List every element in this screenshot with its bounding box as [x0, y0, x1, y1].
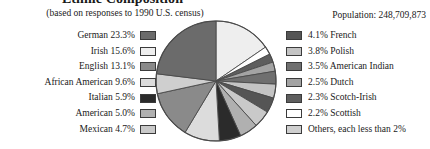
- legend-swatch: [140, 125, 156, 134]
- legend-label: African American 9.6%: [45, 78, 135, 88]
- legend-label: 2.2% Scottish: [308, 109, 361, 119]
- legend-label: 2.5% Dutch: [308, 78, 353, 88]
- legend-item: Italian 5.9%: [0, 90, 156, 106]
- legend-item: 2.5% Dutch: [286, 75, 430, 91]
- pie-chart: [155, 20, 277, 142]
- legend-right: 4.1% French3.8% Polish3.5% American Indi…: [286, 28, 430, 137]
- legend-item: 3.5% American Indian: [286, 59, 430, 75]
- page-subtitle: (based on responses to 1990 U.S. census): [0, 8, 250, 18]
- legend-item: 2.2% Scottish: [286, 106, 430, 122]
- legend-label: German 23.3%: [77, 31, 135, 41]
- legend-swatch: [286, 125, 302, 134]
- legend-swatch: [286, 109, 302, 118]
- legend-label: Mexican 4.7%: [80, 125, 135, 135]
- legend-swatch: [286, 94, 302, 103]
- legend-swatch: [140, 94, 156, 103]
- legend-swatch: [140, 78, 156, 87]
- legend-swatch: [286, 31, 302, 40]
- legend-item: 2.3% Scotch-Irish: [286, 90, 430, 106]
- population-annotation: Population: 248,709,873: [332, 10, 426, 20]
- pie-slice: [156, 21, 216, 81]
- legend-swatch: [140, 47, 156, 56]
- ethnic-composition-figure: Ethnic Composition (based on responses t…: [0, 0, 430, 149]
- legend-item: 4.1% French: [286, 28, 430, 44]
- legend-swatch: [286, 78, 302, 87]
- legend-label: 2.3% Scotch-Irish: [308, 93, 377, 103]
- legend-label: Irish 15.6%: [91, 47, 135, 57]
- legend-item: Irish 15.6%: [0, 44, 156, 60]
- legend-item: 3.8% Polish: [286, 44, 430, 60]
- legend-label: 3.8% Polish: [308, 47, 354, 57]
- legend-label: Others, each less than 2%: [308, 125, 406, 135]
- legend-item: African American 9.6%: [0, 75, 156, 91]
- legend-item: German 23.3%: [0, 28, 156, 44]
- legend-swatch: [140, 62, 156, 71]
- page-title: Ethnic Composition: [0, 0, 245, 7]
- legend-label: Italian 5.9%: [89, 93, 135, 103]
- legend-item: English 13.1%: [0, 59, 156, 75]
- legend-label: 3.5% American Indian: [308, 62, 394, 72]
- pie-chart-svg: [155, 20, 277, 142]
- legend-label: American 5.0%: [75, 109, 135, 119]
- legend-item: Mexican 4.7%: [0, 122, 156, 138]
- legend-swatch: [140, 31, 156, 40]
- legend-item: Others, each less than 2%: [286, 122, 430, 138]
- legend-swatch: [140, 109, 156, 118]
- legend-item: American 5.0%: [0, 106, 156, 122]
- legend-label: English 13.1%: [79, 62, 135, 72]
- legend-left: German 23.3%Irish 15.6%English 13.1%Afri…: [0, 28, 156, 137]
- legend-swatch: [286, 47, 302, 56]
- legend-swatch: [286, 62, 302, 71]
- legend-label: 4.1% French: [308, 31, 357, 41]
